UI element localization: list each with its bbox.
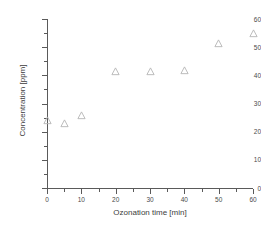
y-tick-minor bbox=[44, 61, 47, 62]
y-tick-minor bbox=[44, 146, 47, 147]
y-axis-line bbox=[47, 19, 48, 189]
data-point-marker bbox=[146, 67, 155, 76]
data-point-marker bbox=[77, 111, 86, 120]
x-tick-minor bbox=[99, 189, 100, 192]
y-tick bbox=[42, 47, 47, 48]
y-tick-label: 60 bbox=[223, 16, 261, 23]
y-tick-label: 30 bbox=[223, 100, 261, 107]
y-tick bbox=[42, 160, 47, 161]
x-tick bbox=[150, 189, 151, 194]
data-point-marker bbox=[60, 119, 69, 128]
y-tick bbox=[42, 132, 47, 133]
x-tick bbox=[219, 189, 220, 194]
x-tick-minor bbox=[202, 189, 203, 192]
x-axis-title: Ozonation time [min] bbox=[47, 208, 253, 217]
x-tick-label: 60 bbox=[241, 196, 261, 203]
x-tick-minor bbox=[64, 189, 65, 192]
data-point-marker bbox=[249, 29, 258, 38]
x-tick bbox=[116, 189, 117, 194]
y-tick-label: 20 bbox=[223, 128, 261, 135]
y-tick bbox=[42, 104, 47, 105]
y-tick-label: 10 bbox=[223, 156, 261, 163]
y-tick-minor bbox=[44, 174, 47, 175]
x-tick bbox=[184, 189, 185, 194]
data-point-marker bbox=[214, 39, 223, 48]
y-tick-label: 40 bbox=[223, 72, 261, 79]
x-tick-label: 40 bbox=[172, 196, 196, 203]
data-point-marker bbox=[111, 67, 120, 76]
data-point-marker bbox=[180, 66, 189, 75]
x-tick-label: 0 bbox=[35, 196, 59, 203]
x-tick bbox=[81, 189, 82, 194]
scatter-chart-figure: 0102030405060 0102030405060 Ozonation ti… bbox=[0, 0, 261, 225]
x-tick-minor bbox=[167, 189, 168, 192]
x-tick-label: 30 bbox=[138, 196, 162, 203]
y-tick bbox=[42, 75, 47, 76]
y-tick bbox=[42, 19, 47, 20]
x-tick bbox=[47, 189, 48, 194]
y-tick-minor bbox=[44, 89, 47, 90]
x-tick-label: 20 bbox=[104, 196, 128, 203]
y-tick-label: 50 bbox=[223, 44, 261, 51]
data-point-marker bbox=[43, 116, 52, 125]
x-tick-minor bbox=[133, 189, 134, 192]
y-axis-title: Concentration [ppm] bbox=[18, 35, 27, 167]
y-tick-minor bbox=[44, 33, 47, 34]
y-tick-label: 0 bbox=[223, 185, 261, 192]
x-tick-label: 10 bbox=[69, 196, 93, 203]
x-tick-label: 50 bbox=[207, 196, 231, 203]
